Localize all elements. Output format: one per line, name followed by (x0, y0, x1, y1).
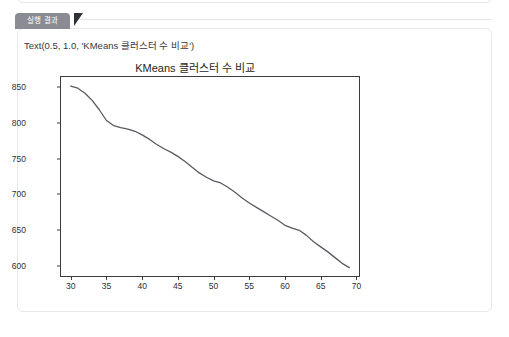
x-tick-label: 65 (316, 281, 325, 291)
result-tab[interactable]: 실행 결과 (15, 13, 70, 29)
y-tick-label: 800 (12, 118, 26, 128)
x-tick-mark (356, 277, 357, 280)
tab-divider-rule (80, 19, 492, 20)
x-tick-label: 70 (352, 281, 361, 291)
y-tick-mark (57, 194, 60, 195)
x-tick-label: 50 (209, 281, 218, 291)
y-tick-mark (57, 266, 60, 267)
x-tick-label: 30 (66, 281, 75, 291)
line-chart-svg (60, 76, 360, 277)
x-tick-mark (142, 277, 143, 280)
y-tick-label: 650 (12, 225, 26, 235)
tab-pointer-icon (74, 13, 83, 26)
y-tick-mark (57, 86, 60, 87)
x-tick-label: 55 (245, 281, 254, 291)
previous-card-edge (17, 0, 492, 3)
x-tick-label: 45 (173, 281, 182, 291)
y-tick-mark (57, 230, 60, 231)
output-repr-text: Text(0.5, 1.0, 'KMeans 클러스터 수 비교') (24, 38, 194, 52)
x-tick-mark (321, 277, 322, 280)
y-tick-mark (57, 122, 60, 123)
plot-area (60, 76, 360, 277)
result-tab-label: 실행 결과 (27, 17, 58, 25)
y-tick-label: 700 (12, 189, 26, 199)
x-tick-mark (285, 277, 286, 280)
y-tick-mark (57, 158, 60, 159)
y-tick-label: 600 (12, 261, 26, 271)
y-tick-label: 750 (12, 154, 26, 164)
x-tick-label: 35 (102, 281, 111, 291)
chart-title: KMeans 클러스터 수 비교 (20, 59, 370, 75)
result-panel-page: 실행 결과 Text(0.5, 1.0, 'KMeans 클러스터 수 비교')… (0, 0, 509, 337)
x-tick-mark (71, 277, 72, 280)
x-tick-mark (106, 277, 107, 280)
x-tick-mark (214, 277, 215, 280)
x-tick-mark (249, 277, 250, 280)
y-tick-label: 850 (12, 82, 26, 92)
x-tick-mark (178, 277, 179, 280)
x-tick-label: 60 (280, 281, 289, 291)
data-series-line (71, 86, 350, 268)
matplotlib-figure: KMeans 클러스터 수 비교 600650700750800850 3035… (20, 55, 370, 300)
x-tick-label: 40 (137, 281, 146, 291)
